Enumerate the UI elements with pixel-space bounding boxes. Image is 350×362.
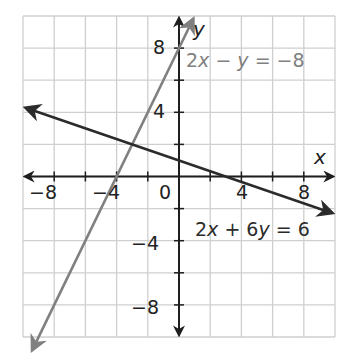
eq1-rhs: = −8 <box>249 49 305 71</box>
equation-label-line2: 2x + 6y = 6 <box>195 220 310 239</box>
eq2-coef: 2 <box>195 218 207 240</box>
eq1-coef: 2 <box>186 49 198 71</box>
x-tick-4: 4 <box>236 183 248 202</box>
y-tick-4: 4 <box>153 102 165 121</box>
eq2-op: + 6 <box>218 218 258 240</box>
eq1-op: − <box>209 49 237 71</box>
eq2-rhs: = 6 <box>270 218 310 240</box>
eq1-var-x: x <box>198 49 209 71</box>
x-tick-8: 8 <box>298 183 310 202</box>
y-tick-neg4: −4 <box>131 234 159 253</box>
equation-label-line1: 2x − y = −8 <box>186 51 305 70</box>
x-tick-neg8: −8 <box>29 183 57 202</box>
eq2-var-x: x <box>207 218 218 240</box>
eq1-var-y: y <box>237 49 248 71</box>
y-tick-neg8: −8 <box>131 298 159 317</box>
x-tick-neg4: −4 <box>92 183 120 202</box>
x-axis-label: x <box>314 147 326 167</box>
eq2-var-y: y <box>258 218 269 240</box>
y-axis-label: y <box>193 19 205 39</box>
origin-label: 0 <box>159 183 171 202</box>
y-tick-8: 8 <box>153 38 165 57</box>
